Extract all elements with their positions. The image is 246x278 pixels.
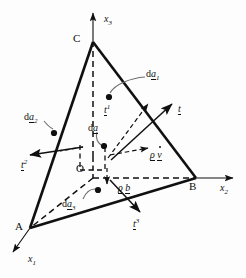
- point-markers: [51, 94, 112, 193]
- traction-label-t2: t2: [21, 159, 27, 171]
- field-label-rho-b: ρ b: [118, 183, 130, 194]
- traction-label-t3: t3: [133, 218, 139, 230]
- axis-label-x3: x3: [104, 14, 112, 27]
- cauchy-tetrahedron-figure: x3 x2 x1 C A B O da1 da2 da da3 t t1 t2 …: [0, 0, 246, 278]
- vertex-label-A: A: [15, 221, 23, 232]
- field-label-rho-vdot: ρ v: [150, 150, 162, 161]
- axis-label-x1: x1: [28, 254, 36, 267]
- traction-label-t: t: [178, 104, 181, 115]
- vertex-label-B: B: [189, 181, 196, 192]
- axis-label-x2: x2: [220, 183, 228, 196]
- vertex-label-O: O: [76, 163, 84, 174]
- area-label-da: da: [88, 123, 98, 134]
- vertex-label-C: C: [73, 33, 80, 44]
- traction-label-t1: t1: [104, 104, 110, 116]
- area-label-da1: da1: [146, 69, 160, 82]
- area-label-da2: da2: [24, 112, 38, 125]
- tetrahedron-drawing: [0, 0, 246, 278]
- area-label-da3: da3: [62, 199, 76, 212]
- rho-vdot-arrow: [110, 148, 148, 155]
